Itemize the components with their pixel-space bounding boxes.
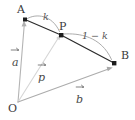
- label-point-o: O: [8, 103, 17, 114]
- label-point-a: A: [17, 4, 25, 15]
- point-dot-P: [59, 33, 63, 37]
- segment-AB-graphic: [25, 20, 114, 64]
- diagram-canvas: [0, 0, 135, 120]
- label-vector-b: b: [76, 88, 83, 107]
- label-vector-b-text: b: [76, 93, 83, 106]
- point-dot-B: [112, 61, 116, 65]
- vector-diagram-figure: A P B O k 1 − k a p b: [0, 0, 135, 120]
- label-point-p: P: [59, 21, 66, 32]
- label-scalar-k: k: [43, 12, 49, 22]
- label-point-b: B: [121, 50, 129, 61]
- label-vector-p-text: p: [38, 71, 45, 84]
- label-vector-a-text: a: [12, 56, 19, 69]
- vector-b-graphic: [18, 67, 113, 102]
- label-scalar-one-minus-k: 1 − k: [82, 31, 108, 41]
- point-dot-A: [23, 18, 27, 22]
- label-vector-a: a: [12, 51, 19, 70]
- label-vector-p: p: [38, 66, 45, 85]
